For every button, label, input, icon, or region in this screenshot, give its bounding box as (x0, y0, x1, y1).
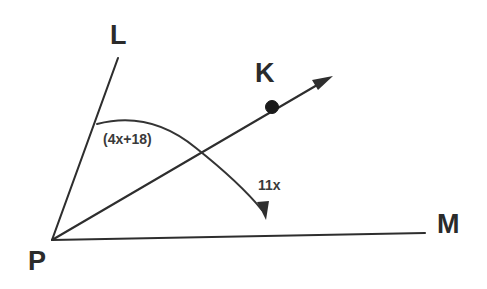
angle-arc-arrowhead-icon (257, 201, 269, 220)
point-k-dot (266, 101, 279, 114)
point-label-m: M (437, 211, 460, 238)
ray-pk-arrowhead-icon (312, 76, 333, 90)
angle-diagram-canvas: L K M P (4x+18) 11x (0, 0, 487, 289)
point-label-p: P (28, 248, 46, 275)
ray-pk-line (52, 81, 324, 240)
angle-measure-label-lpk: (4x+18) (103, 132, 152, 146)
angle-measure-label-kpm: 11x (258, 178, 281, 192)
ray-pm-line (52, 233, 425, 240)
ray-pl-line (52, 58, 118, 240)
point-label-k: K (255, 60, 275, 87)
point-label-l: L (110, 22, 127, 49)
geometry-drawing (0, 0, 487, 289)
